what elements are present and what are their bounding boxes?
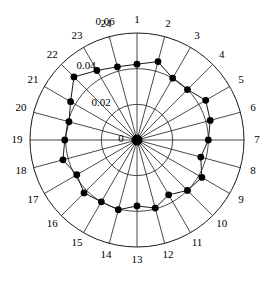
angle-label-6: 6	[250, 101, 256, 113]
spoke-12	[137, 140, 165, 243]
spoke-6	[137, 112, 240, 140]
data-point-17	[73, 171, 80, 178]
data-point-22	[71, 74, 78, 81]
angle-label-1: 1	[134, 13, 140, 25]
angle-label-18: 18	[16, 164, 28, 176]
angle-label-3: 3	[194, 29, 200, 41]
angle-label-22: 22	[47, 48, 58, 60]
data-point-16	[81, 190, 88, 197]
data-point-11	[165, 191, 172, 198]
polar-chart: 123456789101112131415161718192021222324 …	[0, 0, 275, 287]
data-point-15	[98, 198, 105, 205]
angle-label-21: 21	[28, 73, 39, 85]
spoke-18	[34, 140, 137, 168]
spoke-5	[137, 87, 230, 141]
data-point-19	[61, 137, 68, 144]
angle-label-14: 14	[100, 248, 112, 260]
spoke-15	[84, 140, 138, 233]
radial-label-1: 0.02	[91, 96, 110, 108]
data-point-20	[66, 118, 73, 125]
angle-label-11: 11	[192, 236, 203, 248]
data-point-8	[197, 154, 204, 161]
data-point-5	[202, 97, 209, 104]
angle-label-20: 20	[16, 101, 28, 113]
spoke-24	[109, 37, 137, 140]
spoke-2	[137, 37, 165, 140]
data-point-9	[198, 174, 205, 181]
angle-label-9: 9	[238, 193, 244, 205]
angle-label-15: 15	[72, 236, 84, 248]
data-point-21	[67, 98, 74, 105]
data-point-4	[184, 86, 191, 93]
angle-label-23: 23	[72, 29, 84, 41]
center-origin-marker	[132, 135, 143, 146]
angle-label-8: 8	[250, 164, 256, 176]
radial-label-0: 0	[118, 132, 124, 144]
polar-chart-svg: 123456789101112131415161718192021222324 …	[0, 0, 275, 287]
spoke-11	[137, 140, 191, 233]
spoke-17	[44, 140, 137, 194]
data-point-7	[205, 137, 212, 144]
data-point-3	[169, 75, 176, 82]
data-point-13	[134, 203, 141, 210]
spoke-3	[137, 47, 191, 140]
data-point-14	[115, 206, 122, 213]
data-point-18	[60, 156, 67, 163]
radial-label-3: 0.06	[95, 15, 115, 27]
data-point-6	[207, 117, 214, 124]
angle-label-17: 17	[28, 193, 40, 205]
data-point-1	[134, 61, 141, 68]
data-point-2	[155, 58, 162, 65]
spoke-9	[137, 140, 230, 194]
radial-label-2: 0.04	[76, 59, 96, 71]
angle-label-4: 4	[219, 48, 225, 60]
angle-label-13: 13	[132, 253, 144, 265]
angle-label-12: 12	[163, 248, 174, 260]
angle-label-2: 2	[165, 17, 171, 29]
angle-label-5: 5	[238, 73, 244, 85]
spoke-8	[137, 140, 240, 168]
angle-label-19: 19	[12, 133, 24, 145]
angle-label-16: 16	[47, 217, 59, 229]
data-point-10	[184, 187, 191, 194]
data-point-24	[114, 63, 121, 70]
spoke-14	[109, 140, 137, 243]
data-point-12	[152, 205, 159, 212]
angle-label-7: 7	[254, 133, 260, 145]
angle-label-10: 10	[216, 217, 228, 229]
